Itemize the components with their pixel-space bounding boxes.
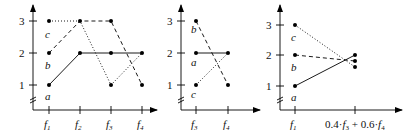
y-tick-1: 1 [266, 80, 272, 92]
series-c-line [196, 53, 228, 85]
panel-middle: 3 2 1 f3 f4 b a c [167, 5, 260, 132]
label-b: b [191, 23, 197, 35]
label-a: a [45, 90, 51, 102]
label-b: b [45, 59, 51, 71]
y-tick-2: 2 [19, 47, 25, 59]
y-tick-3: 3 [167, 15, 173, 27]
x-tick-combination: 0.4·f3 + 0.6·f4 [325, 118, 385, 132]
diagram-canvas: 3 2 1 f1 f2 f3 f4 c b a 3 2 1 f3 f4 [0, 0, 419, 137]
y-tick-1: 1 [19, 79, 25, 91]
x-tick-f4: f4 [223, 118, 230, 132]
label-a: a [291, 91, 297, 103]
y-tick-2: 2 [167, 47, 173, 59]
panel-left: 3 2 1 f1 f2 f3 f4 c b a [19, 5, 157, 132]
series-a-line [49, 53, 142, 85]
x-tick-f1: f1 [290, 118, 297, 132]
label-a: a [191, 56, 197, 68]
x-tick-f1: f1 [44, 118, 51, 132]
x-tick-f4: f4 [137, 118, 144, 132]
label-c: c [291, 31, 296, 43]
x-tick-f3: f3 [191, 118, 198, 132]
y-tick-3: 3 [266, 19, 272, 31]
label-b: b [291, 61, 297, 73]
series-b-line [295, 55, 355, 61]
series-c-line [295, 25, 355, 67]
x-tick-f3: f3 [106, 118, 113, 132]
y-tick-1: 1 [167, 79, 173, 91]
label-c: c [191, 88, 196, 100]
panel-right: 3 2 1 f1 0.4·f3 + 0.6·f4 c b a [266, 5, 402, 132]
label-c: c [45, 28, 50, 40]
x-tick-f2: f2 [75, 118, 82, 132]
y-tick-2: 2 [266, 49, 272, 61]
y-tick-3: 3 [19, 15, 25, 27]
